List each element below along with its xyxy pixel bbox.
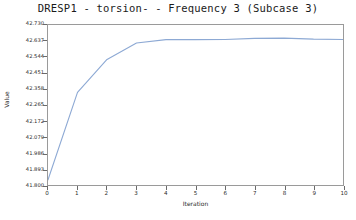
- x-axis-tick-label: 6: [219, 191, 231, 197]
- x-axis-title: Iteration: [47, 200, 344, 207]
- data-line-svg: [48, 25, 343, 185]
- series-torsion-line: [48, 38, 343, 180]
- plot-area: [47, 24, 344, 186]
- x-axis-tick-label: 8: [279, 191, 291, 197]
- chart-container: DRESP1 - torsion- - Frequency 3 (Subcase…: [0, 0, 356, 220]
- x-axis-tick-label: 4: [160, 191, 172, 197]
- x-axis-tick-label: 10: [338, 191, 350, 197]
- chart-title: DRESP1 - torsion- - Frequency 3 (Subcase…: [0, 2, 356, 14]
- x-axis-tick-label: 2: [100, 191, 112, 197]
- x-axis-tick-label: 7: [249, 191, 261, 197]
- x-axis-tick-label: 9: [308, 191, 320, 197]
- x-axis-tick-label: 3: [130, 191, 142, 197]
- x-axis-tick-label: 1: [71, 191, 83, 197]
- x-axis-tick-label: 5: [190, 191, 202, 197]
- y-axis-title: Value: [3, 80, 10, 120]
- x-axis-tick-label: 0: [41, 191, 53, 197]
